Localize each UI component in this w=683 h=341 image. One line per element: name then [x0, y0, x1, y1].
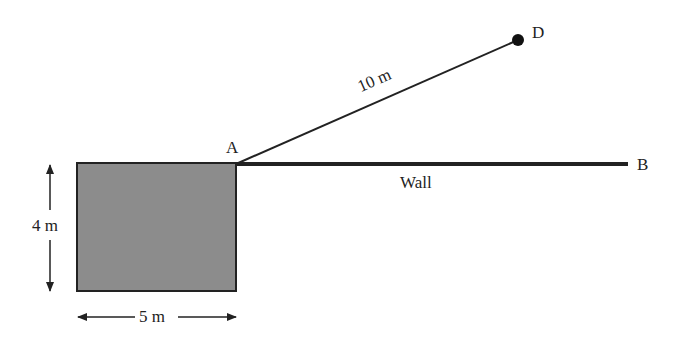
diagram-canvas: [0, 0, 683, 341]
point-d-dot: [512, 34, 524, 46]
width-label: 5 m: [139, 308, 165, 325]
wall-label: Wall: [400, 174, 432, 191]
shaded-square: [77, 163, 236, 291]
point-a-label: A: [226, 139, 238, 156]
rope-line: [236, 40, 518, 164]
point-b-label: B: [637, 156, 648, 173]
height-label: 4 m: [32, 217, 58, 234]
point-d-label: D: [532, 24, 544, 41]
